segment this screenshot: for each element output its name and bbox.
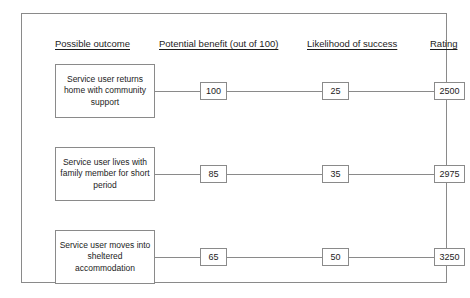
rating-value: 2500: [434, 82, 465, 100]
outcome-row: Service user returns home with community…: [22, 64, 470, 124]
connector-line-segment: [349, 174, 434, 175]
rating-value: 2975: [434, 165, 465, 183]
outcome-description-box: Service user lives with family member fo…: [55, 147, 155, 201]
connector-line-segment: [349, 257, 434, 258]
connector-line-segment: [349, 91, 434, 92]
likelihood-of-success-value: 25: [322, 82, 349, 100]
column-header-potential-benefit: Potential benefit (out of 100): [159, 38, 278, 50]
connector-line-segment: [227, 91, 322, 92]
outcome-description-box: Service user moves into sheltered accomm…: [55, 230, 155, 284]
connector-line-segment: [155, 257, 200, 258]
potential-benefit-value: 85: [200, 165, 227, 183]
potential-benefit-value: 100: [200, 82, 227, 100]
likelihood-of-success-value: 50: [322, 248, 349, 266]
outcome-row: Service user lives with family member fo…: [22, 147, 470, 207]
likelihood-of-success-value: 35: [322, 165, 349, 183]
potential-benefit-value: 65: [200, 248, 227, 266]
connector-line-segment: [155, 91, 200, 92]
column-header-likelihood-of-success: Likelihood of success: [307, 38, 397, 50]
rating-value: 3250: [434, 248, 465, 266]
outcome-description-box: Service user returns home with community…: [55, 64, 155, 118]
connector-line-segment: [155, 174, 200, 175]
connector-line-segment: [227, 257, 322, 258]
diagram-frame: Possible outcome Potential benefit (out …: [21, 13, 447, 283]
outcome-row: Service user moves into sheltered accomm…: [22, 230, 470, 290]
column-header-rating: Rating: [430, 38, 457, 50]
diagram-canvas: Possible outcome Potential benefit (out …: [0, 0, 470, 298]
column-header-possible-outcome: Possible outcome: [55, 38, 130, 50]
connector-line-segment: [227, 174, 322, 175]
